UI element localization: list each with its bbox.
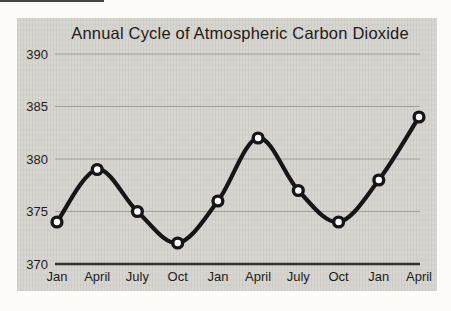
data-point-marker <box>173 238 183 248</box>
x-tick-label: Jan <box>47 269 68 284</box>
x-tick-label: July <box>126 269 150 284</box>
x-tick-label: April <box>84 269 110 284</box>
x-tick-label: July <box>287 269 311 284</box>
data-point-marker <box>414 112 424 122</box>
data-point-marker <box>92 165 102 175</box>
data-point-marker <box>52 217 62 227</box>
x-tick-label: Oct <box>328 269 349 284</box>
co2-line-chart: 370375380385390JanAprilJulyOctJanAprilJu… <box>0 0 451 311</box>
x-tick-label: Oct <box>168 269 189 284</box>
data-point-marker <box>253 133 263 143</box>
y-tick-label: 385 <box>26 99 48 114</box>
y-tick-label: 390 <box>26 47 48 62</box>
x-tick-label: Jan <box>368 269 389 284</box>
x-tick-label: April <box>406 269 432 284</box>
y-tick-label: 370 <box>26 257 48 272</box>
figure: Annual Cycle of Atmospheric Carbon Dioxi… <box>0 0 451 311</box>
data-point-marker <box>334 217 344 227</box>
y-tick-label: 375 <box>26 204 48 219</box>
co2-curve <box>57 117 419 243</box>
data-point-marker <box>133 207 143 217</box>
x-tick-label: April <box>245 269 271 284</box>
data-point-marker <box>374 175 384 185</box>
y-tick-label: 380 <box>26 152 48 167</box>
data-point-marker <box>293 186 303 196</box>
x-tick-label: Jan <box>207 269 228 284</box>
data-point-marker <box>213 196 223 206</box>
